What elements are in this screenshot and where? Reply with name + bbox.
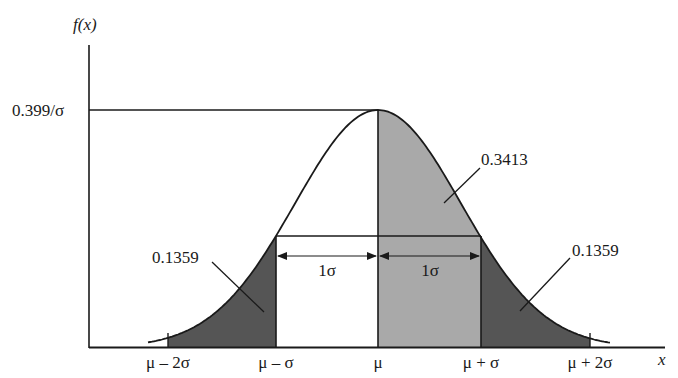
sigma-span-label-right: 1σ <box>421 261 439 280</box>
leader-right-tail <box>520 258 570 311</box>
peak-value-label: 0.399/σ <box>12 101 64 120</box>
center-right-region <box>378 110 481 348</box>
x-axis-label: x <box>657 350 666 369</box>
tick-label-mu-plus-sigma: μ + σ <box>463 353 499 372</box>
area-label-right-tail: 0.1359 <box>572 241 619 260</box>
tick-label-mu-plus-2sigma: μ + 2σ <box>568 353 613 372</box>
area-label-left-tail: 0.1359 <box>152 248 199 267</box>
sigma-span-label-left: 1σ <box>318 261 336 280</box>
normal-distribution-diagram: f(x) x 0.399/σ μ – 2σ μ – σ μ μ + σ μ + … <box>0 0 678 378</box>
tick-label-mu: μ <box>373 353 382 372</box>
area-label-center-right: 0.3413 <box>481 150 528 169</box>
tick-label-mu-minus-2sigma: μ – 2σ <box>146 353 190 372</box>
tick-label-mu-minus-sigma: μ – σ <box>258 353 293 372</box>
y-axis-label: f(x) <box>73 15 97 34</box>
